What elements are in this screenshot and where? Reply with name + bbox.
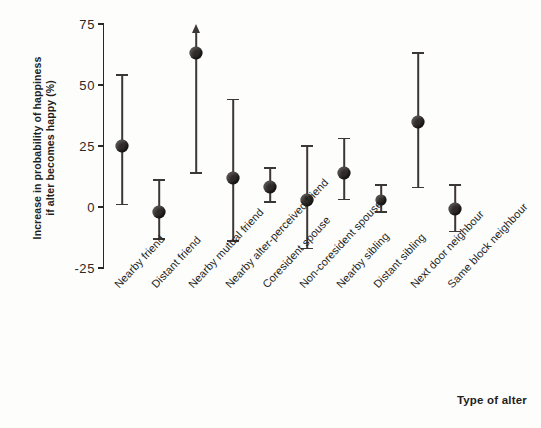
data-point-marker — [153, 205, 166, 218]
data-point-group — [139, 24, 179, 268]
y-tick-label: 50 — [79, 78, 95, 93]
error-bar-cap-upper — [449, 184, 461, 186]
data-point-marker — [190, 47, 203, 60]
error-bar-cap-upper — [227, 99, 239, 101]
y-axis-title-line2: if alter becomes happy (%) — [44, 80, 57, 216]
data-point-marker — [338, 166, 351, 179]
data-point-marker — [412, 115, 425, 128]
error-bar-cap-upper — [375, 184, 387, 186]
y-axis-title-line1: Increase in probability of happiness — [31, 57, 44, 240]
data-point-marker — [227, 171, 240, 184]
error-bar-cap-lower — [116, 204, 128, 206]
error-bar-arrow-icon — [192, 24, 200, 33]
error-bar-cap-upper — [116, 74, 128, 76]
error-bar-cap-upper — [153, 179, 165, 181]
error-bar-cap-lower — [264, 201, 276, 203]
error-bar-cap-upper — [412, 52, 424, 54]
y-tick-label: 25 — [79, 139, 95, 154]
error-bar-cap-lower — [338, 199, 350, 201]
y-tick-label: -25 — [74, 261, 95, 276]
y-tick-label: 0 — [87, 200, 95, 215]
x-axis-title: Type of alter — [457, 394, 527, 406]
y-tick-label: 75 — [79, 17, 95, 32]
data-point-marker — [449, 203, 462, 216]
error-bar-cap-lower — [412, 187, 424, 189]
error-bar-cap-upper — [338, 138, 350, 140]
data-point-marker — [264, 181, 277, 194]
data-point-group — [176, 24, 216, 268]
data-point-group — [102, 24, 142, 268]
happiness-alter-errorbar-chart: Increase in probability of happiness if … — [0, 0, 541, 428]
data-point-marker — [116, 140, 129, 153]
error-bar-cap-upper — [264, 167, 276, 169]
y-axis-title: Increase in probability of happiness if … — [24, 18, 64, 278]
error-bar-cap-upper — [301, 145, 313, 147]
error-bar-cap-lower — [190, 172, 202, 174]
